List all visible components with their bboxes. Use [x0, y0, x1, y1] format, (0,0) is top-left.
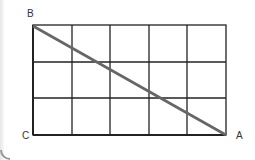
grid-diagram — [0, 0, 255, 160]
label-c: C — [22, 130, 29, 141]
diagonal-ba — [33, 26, 226, 135]
label-a: A — [236, 130, 243, 141]
label-b: B — [27, 8, 34, 19]
